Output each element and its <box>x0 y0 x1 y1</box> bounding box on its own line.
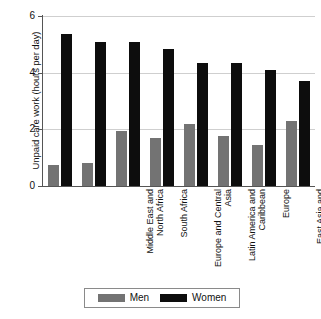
legend-item-women: Women <box>160 293 226 303</box>
legend-swatch-men-icon <box>98 294 125 302</box>
bar-men <box>286 121 297 186</box>
bar-women <box>265 70 276 186</box>
bar-men <box>82 163 93 186</box>
x-axis-label: Europe <box>281 189 291 269</box>
bar-group <box>179 16 213 186</box>
bar-group <box>77 16 111 186</box>
y-tick-label: 2 <box>29 124 35 134</box>
legend-label-women: Women <box>192 293 226 303</box>
chart-legend: Men Women <box>84 288 240 308</box>
bar-men <box>184 124 195 186</box>
x-axis-line <box>42 186 315 187</box>
plot-area: 0246 <box>42 16 314 186</box>
bar-women <box>163 49 174 186</box>
bar-men <box>116 131 127 186</box>
x-axis-label: East Asia and Pacific <box>315 189 321 269</box>
x-axis-label: South Africa <box>179 189 189 269</box>
x-axis-category-labels: Middle East and North AfricaSouth Africa… <box>43 189 315 271</box>
y-tick-mark <box>38 129 42 130</box>
y-tick-mark <box>38 186 42 187</box>
bar-women <box>197 63 208 186</box>
y-tick-mark <box>38 16 42 17</box>
y-tick-mark <box>38 73 42 74</box>
x-axis-label: Latin America and Caribbean <box>247 189 267 269</box>
bar-group <box>43 16 77 186</box>
bar-women <box>231 63 242 186</box>
bar-women <box>61 34 72 186</box>
bar-men <box>252 145 263 186</box>
bars-layer <box>43 16 315 186</box>
bar-group <box>213 16 247 186</box>
y-axis-title: Unpaid care work (hours per day) <box>30 11 41 191</box>
bar-group <box>111 16 145 186</box>
legend-label-men: Men <box>130 293 149 303</box>
bar-group <box>281 16 315 186</box>
bar-women <box>129 42 140 187</box>
x-axis-label: Europe and Central Asia <box>213 189 233 269</box>
x-axis-label: Middle East and North Africa <box>145 189 165 269</box>
y-tick-label: 4 <box>29 68 35 78</box>
bar-women <box>95 42 106 187</box>
bar-group <box>145 16 179 186</box>
y-tick-label: 0 <box>29 181 35 191</box>
bar-men <box>218 136 229 186</box>
y-tick-label: 6 <box>29 11 35 21</box>
bar-women <box>299 81 310 186</box>
bar-men <box>48 165 59 186</box>
legend-item-men: Men <box>98 293 149 303</box>
bar-chart: Unpaid care work (hours per day) 0246 Mi… <box>0 0 321 319</box>
bar-group <box>247 16 281 186</box>
bar-men <box>150 138 161 186</box>
legend-swatch-women-icon <box>160 294 187 302</box>
